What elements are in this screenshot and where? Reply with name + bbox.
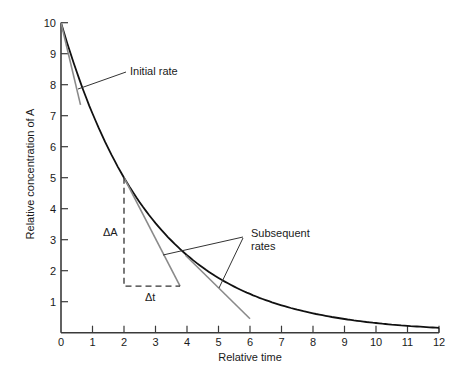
x-tick-label: 4 <box>184 336 190 348</box>
x-axis-label: Relative time <box>218 351 282 363</box>
x-tick-label: 12 <box>433 336 445 348</box>
subsequent-rate-tangent-2 <box>185 255 250 319</box>
y-tick-label: 9 <box>50 48 56 60</box>
initial-rate-label: Initial rate <box>130 65 178 77</box>
delta-a-label: ΔA <box>103 226 118 238</box>
x-tick-label: 6 <box>247 336 253 348</box>
y-axis-ticks: 12345678910 <box>44 17 68 308</box>
concentration-curve <box>61 23 439 328</box>
leader-line <box>163 237 243 255</box>
subsequent-rate-tangent-1 <box>124 178 180 287</box>
subsequent-rates-label-line2: rates <box>251 240 276 252</box>
y-tick-label: 4 <box>50 203 56 215</box>
y-tick-label: 1 <box>50 296 56 308</box>
subsequent-rates-label-line1: Subsequent <box>251 227 310 239</box>
x-tick-label: 2 <box>121 336 127 348</box>
y-tick-label: 5 <box>50 172 56 184</box>
y-tick-label: 7 <box>50 110 56 122</box>
x-tick-label: 8 <box>310 336 316 348</box>
y-tick-label: 8 <box>50 79 56 91</box>
x-tick-label: 11 <box>402 336 413 348</box>
x-tick-label: 3 <box>152 336 158 348</box>
annotation-leader-lines <box>78 72 243 288</box>
x-axis-ticks: 0123456789101112 <box>58 326 445 348</box>
x-tick-label: 9 <box>341 336 347 348</box>
delta-t-label: Δt <box>145 291 155 303</box>
y-tick-label: 2 <box>50 265 56 277</box>
initial-rate-tangent <box>61 23 81 105</box>
leader-line <box>219 238 243 288</box>
y-axis-label: Relative concentration of A <box>24 108 36 240</box>
x-tick-label: 1 <box>89 336 95 348</box>
y-tick-label: 6 <box>50 141 56 153</box>
x-tick-label: 10 <box>370 336 382 348</box>
x-tick-label: 7 <box>278 336 284 348</box>
y-tick-label: 3 <box>50 234 56 246</box>
x-tick-label: 5 <box>215 336 221 348</box>
leader-line <box>78 72 126 89</box>
x-tick-label: 0 <box>58 336 64 348</box>
y-tick-label: 10 <box>44 17 56 29</box>
decay-chart: 0123456789101112 12345678910 Initial rat… <box>0 0 465 384</box>
